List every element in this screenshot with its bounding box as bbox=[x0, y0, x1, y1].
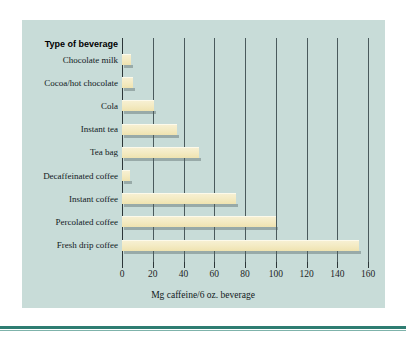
tick-40 bbox=[184, 262, 185, 268]
bar-3 bbox=[122, 124, 177, 135]
bar-shadow-5 bbox=[124, 181, 132, 184]
tick-20 bbox=[153, 262, 154, 268]
tick-80 bbox=[245, 262, 246, 268]
category-label-3: Instant tea bbox=[10, 124, 118, 134]
bar-shadow-2 bbox=[124, 111, 156, 114]
category-label-2: Cola bbox=[10, 101, 118, 111]
tick-120 bbox=[307, 262, 308, 268]
bar-5 bbox=[122, 170, 130, 181]
bar-shadow-0 bbox=[124, 65, 133, 68]
category-label-8: Fresh drip coffee bbox=[10, 240, 118, 250]
bar-fill-5 bbox=[122, 170, 130, 181]
bar-fill-7 bbox=[122, 216, 276, 227]
gridline-140 bbox=[337, 38, 338, 262]
tick-160 bbox=[368, 262, 369, 268]
bar-fill-4 bbox=[122, 147, 199, 158]
tick-0 bbox=[122, 262, 123, 268]
bar-shadow-3 bbox=[124, 135, 179, 138]
bar-shadow-4 bbox=[124, 158, 201, 161]
bar-fill-0 bbox=[122, 54, 131, 65]
bar-shadow-8 bbox=[124, 251, 361, 254]
bar-fill-2 bbox=[122, 100, 154, 111]
bar-shadow-6 bbox=[124, 204, 238, 207]
bar-chart: 020406080100120140160 Type of beverage C… bbox=[0, 0, 406, 340]
category-label-6: Instant coffee bbox=[10, 194, 118, 204]
category-label-5: Decaffeinated coffee bbox=[10, 171, 118, 181]
bar-4 bbox=[122, 147, 199, 158]
footer-rule bbox=[0, 326, 406, 329]
bar-1 bbox=[122, 77, 133, 88]
bar-6 bbox=[122, 193, 236, 204]
gridline-160 bbox=[368, 38, 369, 262]
tick-60 bbox=[214, 262, 215, 268]
tick-label-160: 160 bbox=[348, 269, 388, 279]
bar-fill-3 bbox=[122, 124, 177, 135]
bar-shadow-7 bbox=[124, 227, 278, 230]
bar-fill-8 bbox=[122, 240, 359, 251]
tick-140 bbox=[337, 262, 338, 268]
bar-fill-6 bbox=[122, 193, 236, 204]
category-label-7: Percolated coffee bbox=[10, 217, 118, 227]
x-axis-title: Mg caffeine/6 oz. beverage bbox=[0, 290, 406, 300]
category-label-0: Chocolate milk bbox=[10, 55, 118, 65]
bar-fill-1 bbox=[122, 77, 133, 88]
footer-rule-secondary bbox=[0, 330, 406, 331]
bar-7 bbox=[122, 216, 276, 227]
gridline-120 bbox=[307, 38, 308, 262]
tick-100 bbox=[276, 262, 277, 268]
bar-0 bbox=[122, 54, 131, 65]
bar-8 bbox=[122, 240, 359, 251]
category-label-1: Cocoa/hot chocolate bbox=[10, 78, 118, 88]
bar-shadow-1 bbox=[124, 88, 135, 91]
bar-2 bbox=[122, 100, 154, 111]
category-label-4: Tea bag bbox=[10, 147, 118, 157]
page-root: 020406080100120140160 Type of beverage C… bbox=[0, 0, 406, 340]
category-axis-header: Type of beverage bbox=[10, 39, 118, 49]
